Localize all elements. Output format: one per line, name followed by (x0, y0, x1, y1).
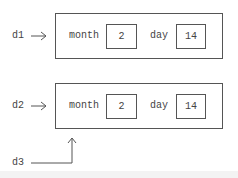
arrow-d3-icon (31, 138, 72, 163)
reference-arrows (0, 0, 238, 178)
bottom-band (0, 171, 238, 178)
